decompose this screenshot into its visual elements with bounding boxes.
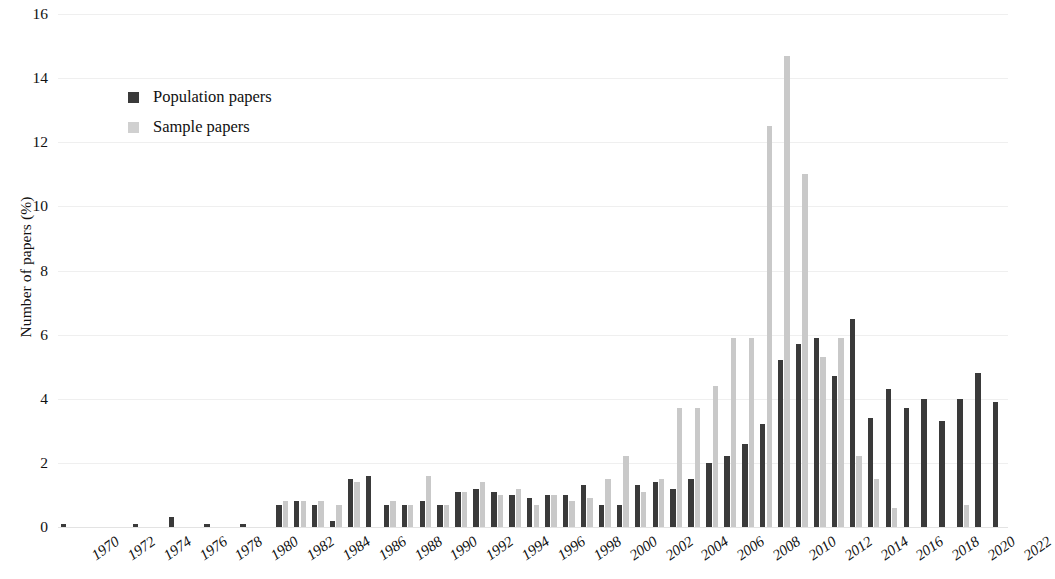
light-square-swatch: [128, 122, 139, 133]
bar-population-2011: [796, 344, 801, 527]
y-axis-tick-label: 16: [10, 5, 48, 23]
bar-sample-2007: [731, 338, 736, 527]
bar-population-2005: [688, 479, 693, 527]
x-axis-tick-label: 2010: [805, 533, 839, 564]
x-axis-tick-label: 2004: [698, 533, 732, 564]
bar-population-2014: [850, 319, 855, 527]
bar-population-2013: [832, 376, 837, 527]
bar-population-1995: [509, 495, 514, 527]
x-axis-tick-label: 1992: [483, 533, 517, 564]
bar-population-1982: [276, 505, 281, 527]
y-axis-tick-label: 12: [10, 133, 48, 151]
bar-sample-1991: [444, 505, 449, 527]
bar-sample-1995: [516, 489, 521, 527]
bar-sample-2005: [695, 408, 700, 527]
bar-population-1986: [348, 479, 353, 527]
bar-population-1984: [312, 505, 317, 527]
x-axis-tick-label: 1990: [447, 533, 481, 564]
bar-sample-1985: [336, 505, 341, 527]
legend-item-population: Population papers: [128, 82, 348, 112]
bar-sample-2009: [767, 126, 772, 527]
bar-sample-1999: [587, 498, 592, 527]
bar-sample-1990: [426, 476, 431, 527]
bar-population-2020: [957, 399, 962, 527]
bar-population-2007: [724, 456, 729, 527]
bar-population-1994: [491, 492, 496, 527]
x-axis-tick-label: 2018: [949, 533, 983, 564]
bar-sample-2015: [874, 479, 879, 527]
x-axis-tick-label: 2022: [1020, 533, 1054, 564]
bar-population-1991: [437, 505, 442, 527]
bar-population-1998: [563, 495, 568, 527]
x-axis-tick-label: 2006: [734, 533, 768, 564]
bar-population-2017: [904, 408, 909, 527]
bar-population-1997: [545, 495, 550, 527]
bar-sample-2008: [749, 338, 754, 527]
legend-label-population: Population papers: [153, 87, 272, 107]
bar-population-1996: [527, 498, 532, 527]
bar-sample-1992: [462, 492, 467, 527]
x-axis-tick-label: 1988: [411, 533, 445, 564]
y-axis-tick-label: 4: [10, 390, 48, 408]
chart-legend: Population papers Sample papers: [128, 82, 348, 142]
bar-population-2001: [617, 505, 622, 527]
y-axis-tick-label: 14: [10, 69, 48, 87]
x-axis-tick-label: 1980: [268, 533, 302, 564]
bar-sample-1984: [318, 501, 323, 527]
y-axis-tick-label: 0: [10, 518, 48, 536]
bar-population-1989: [402, 505, 407, 527]
legend-label-sample: Sample papers: [153, 117, 250, 137]
bar-sample-2006: [713, 386, 718, 527]
bar-population-2015: [868, 418, 873, 527]
legend-item-sample: Sample papers: [128, 112, 348, 142]
x-axis-tick-labels: 1970197219741976197819801982198419861988…: [58, 527, 1008, 579]
bar-population-2022: [993, 402, 998, 527]
bar-sample-1996: [534, 505, 539, 527]
bar-population-1983: [294, 501, 299, 527]
x-axis-tick-label: 1978: [232, 533, 266, 564]
y-axis-tick-label: 10: [10, 197, 48, 215]
bar-sample-2014: [856, 456, 861, 527]
bar-sample-2003: [659, 479, 664, 527]
x-axis-tick-label: 1982: [303, 533, 337, 564]
x-axis-tick-label: 2000: [626, 533, 660, 564]
y-axis-tick-label: 2: [10, 454, 48, 472]
bar-population-1993: [473, 489, 478, 527]
bar-population-2018: [921, 399, 926, 527]
x-axis-tick-label: 1976: [196, 533, 230, 564]
bar-sample-2013: [838, 338, 843, 527]
x-axis-tick-label: 1994: [519, 533, 553, 564]
bar-sample-2010: [784, 56, 789, 527]
bar-sample-2004: [677, 408, 682, 527]
x-axis-tick-label: 2008: [770, 533, 804, 564]
bar-sample-2011: [802, 174, 807, 527]
bar-sample-2001: [623, 456, 628, 527]
bar-population-1992: [455, 492, 460, 527]
bar-sample-2020: [964, 505, 969, 527]
bar-population-1988: [384, 505, 389, 527]
x-axis-tick-label: 2016: [913, 533, 947, 564]
bar-sample-1988: [390, 501, 395, 527]
bar-sample-1997: [551, 495, 556, 527]
bar-population-2019: [939, 421, 944, 527]
bar-sample-2016: [892, 508, 897, 527]
bar-population-1987: [366, 476, 371, 527]
bar-sample-1982: [283, 501, 288, 527]
x-axis-tick-label: 1986: [375, 533, 409, 564]
bar-population-2008: [742, 444, 747, 527]
x-axis-tick-label: 2020: [985, 533, 1019, 564]
bar-population-2016: [886, 389, 891, 527]
x-axis-tick-label: 2014: [877, 533, 911, 564]
y-axis-tick-label: 6: [10, 326, 48, 344]
x-axis-tick-label: 1972: [124, 533, 158, 564]
x-axis-tick-label: 2002: [662, 533, 696, 564]
bar-sample-1986: [354, 482, 359, 527]
bar-population-2021: [975, 373, 980, 527]
bar-population-2010: [778, 360, 783, 527]
bar-sample-2000: [605, 479, 610, 527]
bar-population-1976: [169, 517, 174, 527]
bar-population-2009: [760, 424, 765, 527]
bar-population-2012: [814, 338, 819, 527]
bar-population-2003: [653, 482, 658, 527]
